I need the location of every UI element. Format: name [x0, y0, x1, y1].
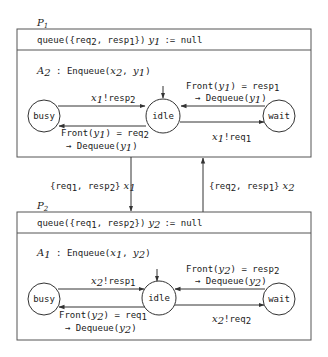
channel-x2-label: {req2, resp1}x2: [209, 180, 295, 193]
svg-text:idle: idle: [148, 293, 170, 303]
svg-text:wait: wait: [268, 294, 290, 304]
process-p2-box: [17, 212, 311, 340]
state-busy: busy: [28, 100, 60, 132]
svg-text:busy: busy: [33, 111, 55, 121]
channel-x1-label: {req1, resp2}x1: [50, 180, 136, 193]
state-wait: wait: [263, 283, 295, 315]
process-p1-label: P1: [36, 17, 48, 30]
process-p2-label: P2: [36, 200, 49, 213]
state-busy: busy: [28, 283, 60, 315]
svg-text:busy: busy: [33, 294, 55, 304]
process-p1: P1 queue({req2, resp1})y1:= null A2 : En…: [17, 17, 311, 157]
svg-text:wait: wait: [268, 111, 290, 121]
state-wait: wait: [263, 100, 295, 132]
process-p2: P2 queue({req1, resp2})y2:= null A1 : En…: [17, 200, 311, 340]
svg-text:idle: idle: [152, 111, 174, 121]
process-diagram: P1 queue({req2, resp1})y1:= null A2 : En…: [0, 0, 328, 357]
state-idle: idle: [146, 99, 180, 133]
state-idle: idle: [142, 281, 176, 315]
